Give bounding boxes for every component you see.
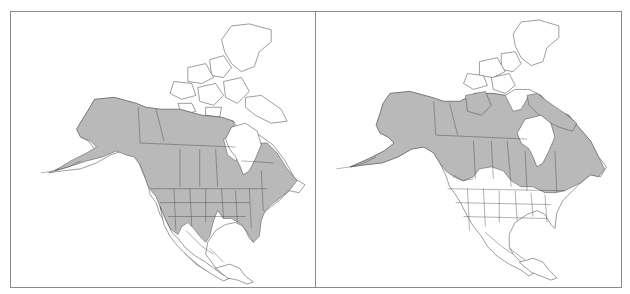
arctic-islands xyxy=(464,20,559,93)
range-map-right xyxy=(316,12,621,287)
arctic-islands xyxy=(170,24,287,123)
north-america-map-left xyxy=(11,12,315,287)
north-america-map-right xyxy=(316,12,621,287)
range-area-left xyxy=(55,97,297,242)
range-map-left xyxy=(11,12,316,287)
range-map-figure xyxy=(10,11,622,288)
